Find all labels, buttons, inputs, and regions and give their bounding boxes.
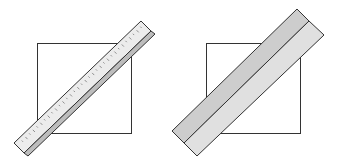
ruler bbox=[14, 21, 155, 156]
right-panel bbox=[172, 9, 324, 156]
diagram-canvas bbox=[0, 0, 341, 166]
straightedge-band-lower bbox=[184, 21, 324, 156]
left-panel bbox=[14, 21, 155, 156]
diagram-svg bbox=[0, 0, 341, 166]
